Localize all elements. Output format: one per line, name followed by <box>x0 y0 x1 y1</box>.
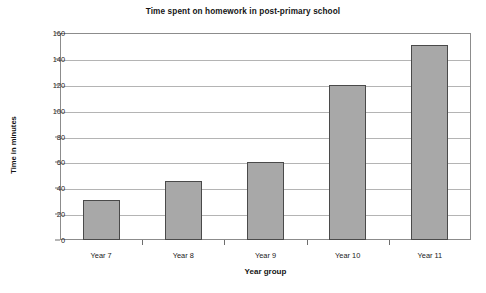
x-axis-tick-mark <box>224 240 225 245</box>
bar-chart: Time spent on homework in post-primary s… <box>0 0 486 293</box>
bar <box>83 200 120 240</box>
x-axis-category-label: Year 8 <box>173 251 194 260</box>
x-axis-category-label: Year 9 <box>255 251 276 260</box>
bar <box>329 85 366 240</box>
x-axis-tick-mark <box>142 240 143 245</box>
x-axis-category-label: Year 11 <box>418 251 443 260</box>
x-axis-title: Year group <box>60 267 471 276</box>
x-axis-category-label: Year 10 <box>335 251 360 260</box>
bar <box>165 181 202 241</box>
bars-container <box>60 33 471 240</box>
x-axis-category-label: Year 7 <box>91 251 112 260</box>
bar <box>411 45 448 240</box>
chart-title: Time spent on homework in post-primary s… <box>0 7 486 16</box>
y-axis-title-text: Time in minutes <box>5 95 23 195</box>
bar <box>247 162 284 240</box>
x-axis-tick-mark <box>389 240 390 245</box>
x-axis-tick-mark <box>307 240 308 245</box>
y-axis-title: Time in minutes <box>5 95 23 195</box>
